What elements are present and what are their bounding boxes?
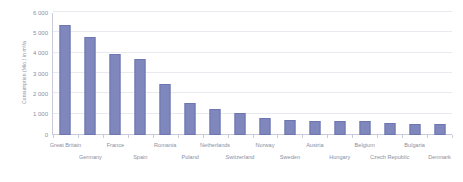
x-axis-tick-labels: Great BritainGermanyFranceSpainRomaniaPo…	[53, 139, 452, 169]
x-axis-tick	[103, 135, 104, 138]
x-axis-tick	[277, 135, 278, 138]
y-axis-tick-labels: 01 0002 0003 0004 0005 0006 000	[0, 13, 48, 135]
bar-chart: Consumption (Mio.) in m³/a 01 0002 0003 …	[0, 0, 463, 182]
bar[interactable]	[359, 121, 370, 135]
x-axis-tick-label: Austria	[306, 141, 323, 149]
bar-slot	[402, 13, 427, 135]
gridline	[53, 11, 452, 12]
x-axis-tick-label: Sweden	[280, 153, 300, 161]
bar[interactable]	[185, 103, 196, 135]
x-axis-tick	[327, 135, 328, 138]
x-axis-tick-label: Poland	[181, 153, 198, 161]
bar-slot	[277, 13, 302, 135]
x-axis-tick	[377, 135, 378, 138]
bar-series	[53, 13, 452, 135]
bar[interactable]	[409, 124, 420, 135]
x-axis-tick	[153, 135, 154, 138]
x-axis-tick	[203, 135, 204, 138]
x-axis-tick-label: Czech Republic	[370, 153, 409, 161]
bar-slot	[327, 13, 352, 135]
bar[interactable]	[110, 54, 121, 135]
x-axis-tick	[302, 135, 303, 138]
x-axis-tick	[178, 135, 179, 138]
y-axis-tick-label: 2 000	[4, 91, 48, 98]
x-axis-tick-label: Norway	[255, 141, 274, 149]
bar-slot	[103, 13, 128, 135]
x-axis-tick-label: Romania	[154, 141, 176, 149]
y-axis-tick-label: 4 000	[4, 50, 48, 57]
bar-slot	[178, 13, 203, 135]
x-axis-tick-label: Belgium	[355, 141, 375, 149]
bar-slot	[228, 13, 253, 135]
x-axis-tick-label: Bulgaria	[404, 141, 425, 149]
bar-slot	[427, 13, 452, 135]
x-axis-tick-label: Switzerland	[226, 153, 255, 161]
y-axis-tick-label: 3 000	[4, 71, 48, 78]
x-axis-tick	[228, 135, 229, 138]
x-axis-tick	[78, 135, 79, 138]
y-axis-tick-label: 6 000	[4, 10, 48, 17]
bar-slot	[128, 13, 153, 135]
x-axis-tick-label: Hungary	[329, 153, 350, 161]
bar[interactable]	[235, 113, 246, 135]
bar[interactable]	[434, 124, 445, 135]
bar-slot	[352, 13, 377, 135]
bar[interactable]	[85, 37, 96, 135]
bar[interactable]	[309, 121, 320, 135]
y-axis-tick-label: 5 000	[4, 30, 48, 37]
bar[interactable]	[210, 109, 221, 135]
bar[interactable]	[60, 25, 71, 135]
bar-slot	[53, 13, 78, 135]
x-axis-tick	[452, 135, 453, 138]
bar[interactable]	[135, 59, 146, 135]
bar[interactable]	[334, 121, 345, 135]
x-axis-tick	[427, 135, 428, 138]
bar-slot	[302, 13, 327, 135]
bar-slot	[377, 13, 402, 135]
x-axis-tick	[53, 135, 54, 138]
x-axis-tick-label: Denmark	[428, 153, 451, 161]
x-axis-tick-label: Spain	[133, 153, 147, 161]
bar-slot	[78, 13, 103, 135]
x-axis-tick	[402, 135, 403, 138]
y-axis-tick-label: 0	[4, 132, 48, 139]
x-axis-tick-label: France	[107, 141, 124, 149]
bar-slot	[203, 13, 228, 135]
bar[interactable]	[284, 120, 295, 135]
bar[interactable]	[259, 118, 270, 135]
x-axis-tick	[128, 135, 129, 138]
x-axis-tick-label: Netherlands	[200, 141, 230, 149]
y-axis-tick-label: 1 000	[4, 111, 48, 118]
x-axis-tick	[352, 135, 353, 138]
x-axis-tick	[253, 135, 254, 138]
x-axis-tick-label: Great Britain	[50, 141, 81, 149]
bar[interactable]	[384, 123, 395, 135]
bar[interactable]	[160, 84, 171, 135]
bar-slot	[253, 13, 278, 135]
bar-slot	[153, 13, 178, 135]
x-axis-tick-label: Germany	[79, 153, 102, 161]
